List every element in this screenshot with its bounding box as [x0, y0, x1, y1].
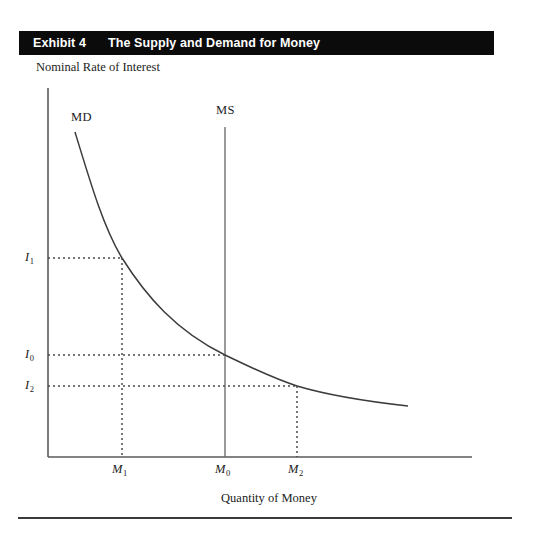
x-tick-label-m0: M0: [215, 462, 230, 477]
y-tick-i2-letter: I: [25, 378, 29, 392]
y-tick-label-i0: I0: [25, 347, 33, 362]
y-tick-i1-letter: I: [25, 250, 29, 264]
x-tick-m1-letter: M: [112, 462, 122, 476]
y-tick-label-i1: I1: [25, 250, 33, 265]
x-tick-m1-subscript: 1: [123, 468, 127, 478]
money-market-chart: [0, 0, 538, 541]
money-demand-curve: [75, 132, 408, 406]
x-tick-m2-letter: M: [288, 462, 298, 476]
x-tick-label-m2: M2: [288, 462, 303, 477]
x-tick-label-m1: M1: [112, 462, 127, 477]
y-tick-i0-letter: I: [25, 347, 29, 361]
money-demand-curve-label: MD: [71, 110, 92, 125]
x-tick-m0-letter: M: [215, 462, 225, 476]
x-tick-m2-subscript: 2: [299, 468, 303, 478]
y-tick-i1-subscript: 1: [30, 256, 34, 266]
y-tick-i2-subscript: 2: [30, 384, 34, 394]
money-supply-curve-label: MS: [216, 103, 235, 118]
footer-divider-rule: [18, 517, 512, 519]
y-tick-label-i2: I2: [25, 378, 33, 393]
y-tick-i0-subscript: 0: [30, 353, 34, 363]
x-tick-m0-subscript: 0: [226, 468, 230, 478]
